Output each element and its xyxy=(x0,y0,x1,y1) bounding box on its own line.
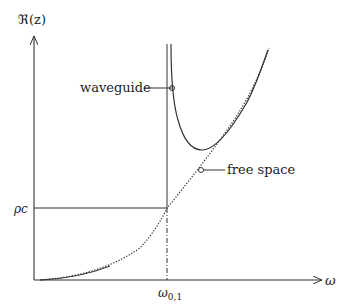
cutoff-label: ω0,1 xyxy=(158,286,182,302)
free-space-start xyxy=(40,266,110,280)
waveguide-curve xyxy=(171,44,268,150)
impedance-diagram: ℜ(z) ω ρc ω0,1 waveguide free space xyxy=(0,0,353,305)
waveguide-label: waveguide xyxy=(80,80,151,95)
free-space-label: free space xyxy=(227,162,296,177)
rho-c-label: ρc xyxy=(13,202,28,216)
y-axis-label: ℜ(z) xyxy=(18,12,46,27)
free-space-marker xyxy=(199,168,204,173)
x-axis-label: ω xyxy=(325,273,336,288)
